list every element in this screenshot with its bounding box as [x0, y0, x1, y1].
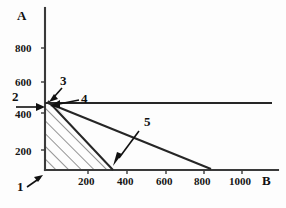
x-tick-label-800: 800	[194, 175, 211, 187]
x-axis-title: B	[262, 173, 271, 188]
callout-5-label: 5	[144, 114, 151, 129]
callout-1-group: 1	[17, 175, 43, 194]
constraint-graph-svg: A B 800 600 400 200 200 400 600 800 1000…	[0, 0, 286, 208]
y-tick-label-800: 800	[15, 42, 32, 54]
x-tick-label-400: 400	[117, 175, 134, 187]
x-tick-label-600: 600	[156, 175, 173, 187]
callout-2-arrow-head	[36, 103, 45, 111]
callout-5-arrow-head	[113, 152, 122, 166]
y-tick-label-400: 400	[15, 108, 32, 120]
callout-4-label: 4	[81, 91, 88, 106]
graph-figure: A B 800 600 400 200 200 400 600 800 1000…	[0, 0, 286, 208]
callout-2-group: 2	[12, 89, 45, 111]
y-axis-title: A	[17, 8, 27, 23]
callout-3-group: 3	[49, 73, 67, 102]
y-tick-label-600: 600	[15, 76, 32, 88]
x-tick-label-1000: 1000	[229, 175, 252, 187]
y-tick-label-200: 200	[15, 145, 32, 157]
callout-2-label: 2	[12, 89, 19, 104]
callout-1-label: 1	[17, 179, 24, 194]
callout-3-label: 3	[60, 73, 67, 88]
x-tick-label-200: 200	[78, 175, 95, 187]
callout-5-group: 5	[113, 114, 151, 166]
